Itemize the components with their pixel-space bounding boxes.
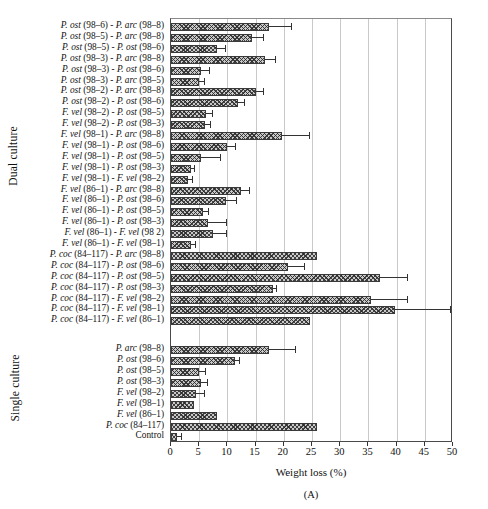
bar-row	[171, 346, 453, 354]
error-bar-cap	[263, 88, 264, 95]
category-label: P. coc (84–117) - P. ost (98–6)	[51, 261, 164, 270]
axis-tick-label: 15	[249, 446, 260, 457]
axis-tick-label: 5	[196, 446, 201, 457]
error-bar	[371, 299, 407, 300]
category-label: P. ost (98–5) - P. ost (98–6)	[62, 43, 164, 52]
error-bar	[269, 349, 295, 350]
error-bar	[380, 277, 408, 278]
bar-row	[171, 433, 453, 441]
category-label: P. coc (84–117) - F. vel (98–1)	[51, 304, 164, 313]
category-label: P. coc (84–117) - P. arc (98–8)	[50, 250, 164, 259]
bar-row	[171, 99, 453, 107]
bar-row	[171, 230, 453, 238]
category-label: P. arc (98–8)	[116, 344, 164, 353]
error-bar-cap	[236, 197, 237, 204]
error-bar	[238, 102, 245, 103]
axis-tick-label: 30	[334, 446, 345, 457]
error-bar	[196, 393, 204, 394]
bar	[171, 56, 265, 64]
bar	[171, 423, 317, 431]
bar	[171, 154, 201, 162]
error-bar-cap	[207, 379, 208, 386]
category-label: F. vel (98–1) - F. vel (98–2)	[62, 174, 164, 183]
bar-row	[171, 379, 453, 387]
bar-row	[171, 208, 453, 216]
bar	[171, 274, 380, 282]
bar-row	[171, 121, 453, 129]
error-bar	[213, 233, 225, 234]
error-bar-cap	[225, 45, 226, 52]
bar	[171, 252, 317, 260]
axis-tick-label: 20	[278, 446, 289, 457]
category-label: F. vel (86–1) - P. ost (98–6)	[62, 195, 164, 204]
category-label: P. coc (84–117) - P. ost (98–5)	[51, 272, 164, 281]
error-bar-cap	[450, 306, 451, 313]
error-bar-cap	[309, 132, 310, 139]
error-bar-cap	[181, 433, 182, 440]
category-label: P. ost (98–3) - P. arc (98–8)	[61, 54, 164, 63]
axis-tick-label: 25	[306, 446, 317, 457]
bar-row	[171, 56, 453, 64]
bar-row	[171, 197, 453, 205]
error-bar-cap	[208, 208, 209, 215]
bar-row	[171, 132, 453, 140]
error-bar-cap	[295, 346, 296, 353]
category-label: F. vel (86–1) - P. arc (98–8)	[61, 185, 164, 194]
category-label: F. vel (98–1) - P. ost (98–6)	[62, 141, 164, 150]
bar	[171, 165, 191, 173]
weight-loss-bar-chart: Dual culture Single culture P. ost (98–6…	[0, 0, 488, 509]
bar	[171, 78, 199, 86]
bar	[171, 45, 217, 53]
bar	[171, 317, 310, 325]
bar	[171, 401, 194, 409]
bar-row	[171, 110, 453, 118]
bar-row	[171, 34, 453, 42]
plot-area	[170, 18, 452, 442]
error-bar	[201, 157, 219, 158]
bar	[171, 67, 201, 75]
bar	[171, 23, 269, 31]
axis-tick-label: 35	[362, 446, 373, 457]
bar	[171, 99, 238, 107]
error-bar-cap	[204, 78, 205, 85]
error-bar	[256, 91, 263, 92]
bar-row	[171, 23, 453, 31]
category-label: F. vel (86–1) - F. vel (98–1)	[62, 239, 164, 248]
bar	[171, 390, 196, 398]
error-bar-cap	[263, 34, 264, 41]
error-bar-cap	[209, 67, 210, 74]
category-axis-labels: P. ost (98–6) - P. arc (98–8)P. ost (98–…	[0, 0, 168, 460]
category-label: P. coc (84–117) - F. vel (86–1)	[51, 315, 164, 324]
category-label: P. coc (84–117) - F. vel (98–2)	[51, 294, 164, 303]
error-bar	[252, 37, 263, 38]
error-bar-cap	[195, 241, 196, 248]
axis-tick-label: 50	[447, 446, 458, 457]
bar	[171, 110, 206, 118]
category-label: F. vel (98–1) - P. arc (98–8)	[61, 130, 164, 139]
error-bar-cap	[291, 23, 292, 30]
bar	[171, 197, 226, 205]
category-label: P. ost (98–3) - P. arc (98–5)	[61, 76, 164, 85]
axis-tick-label: 45	[419, 446, 430, 457]
bar-row	[171, 263, 453, 271]
error-bar	[199, 371, 206, 372]
error-bar-cap	[407, 296, 408, 303]
bar-row	[171, 317, 453, 325]
bar-series	[171, 19, 451, 441]
error-bar-cap	[194, 165, 195, 172]
bar	[171, 187, 241, 195]
error-bar	[226, 200, 236, 201]
category-label: P. ost (98–5) - P. arc (98–8)	[61, 32, 164, 41]
bar	[171, 379, 201, 387]
bar-row	[171, 357, 453, 365]
category-label: P. ost (98–2) - P. ost (98–6)	[62, 97, 164, 106]
error-bar-cap	[249, 187, 250, 194]
category-label: F. vel (98–2) - P. ost (98–5)	[62, 108, 164, 117]
value-axis: 05101520253035404550	[0, 442, 488, 462]
bar-row	[171, 285, 453, 293]
bar	[171, 132, 282, 140]
axis-tick-label: 0	[167, 446, 172, 457]
bar-row	[171, 154, 453, 162]
error-bar	[395, 309, 450, 310]
category-label: P. ost (98–3)	[117, 377, 164, 386]
